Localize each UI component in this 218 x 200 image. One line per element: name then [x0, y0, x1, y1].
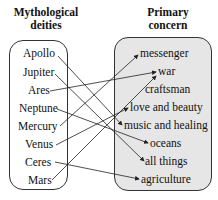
arrow-apollo: [58, 56, 122, 125]
arrow-jupiter: [55, 74, 144, 161]
arrow-ares: [50, 72, 156, 91]
arrow-mars: [52, 76, 156, 180]
mapping-arrows: [0, 0, 218, 200]
